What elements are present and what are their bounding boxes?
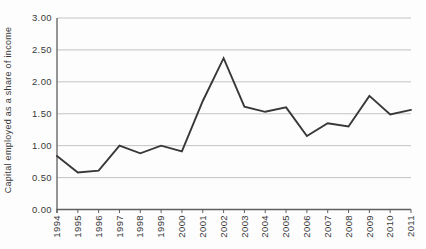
y-tick-label: 3.00 — [32, 12, 52, 23]
x-tick-label: 1997 — [114, 215, 125, 238]
y-tick-label: 2.50 — [32, 44, 52, 55]
x-tick-label: 2010 — [384, 215, 395, 238]
x-tick-label: 2011 — [405, 215, 416, 237]
y-tick-label: 2.00 — [32, 76, 52, 87]
y-tick-label: 0.50 — [32, 172, 52, 183]
capital-share-series-line — [57, 58, 411, 172]
x-tick-label: 2004 — [259, 215, 270, 238]
x-tick-label: 2006 — [301, 215, 312, 238]
x-tick-label: 2008 — [343, 215, 354, 238]
line-chart-canvas: Capital employed as a share of income 0.… — [0, 0, 426, 249]
x-tick-label: 2001 — [197, 215, 208, 238]
x-tick-label: 2000 — [176, 215, 187, 238]
x-tick-label: 1998 — [134, 215, 145, 238]
x-tick-label: 2002 — [218, 215, 229, 238]
y-tick-label: 1.00 — [32, 140, 52, 151]
x-tick-label: 2009 — [364, 215, 375, 238]
x-tick-label: 1996 — [93, 215, 104, 238]
x-tick-label: 1995 — [72, 215, 83, 238]
y-tick-label: 0.00 — [32, 204, 52, 215]
x-tick-label: 2003 — [239, 215, 250, 238]
capital-share-line-chart-figure: Capital employed as a share of income 0.… — [0, 0, 426, 249]
x-tick-label: 1999 — [155, 215, 166, 238]
x-tick-label: 2005 — [280, 215, 291, 238]
x-tick-label: 2007 — [322, 215, 333, 238]
y-tick-label: 1.50 — [32, 108, 52, 119]
y-axis-title: Capital employed as a share of income — [3, 27, 13, 194]
x-tick-label: 1994 — [51, 215, 62, 238]
